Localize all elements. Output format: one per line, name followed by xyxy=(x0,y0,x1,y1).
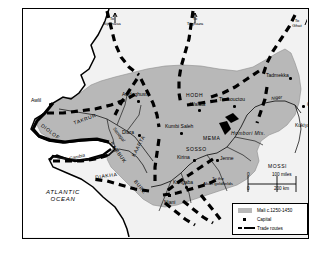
town-label-kangaba: Kangaba xyxy=(173,180,193,185)
town-marker-awlil xyxy=(49,103,52,106)
town-label-awlil: Awlil xyxy=(31,98,41,103)
town-label-kukiya: Kukiya xyxy=(295,123,309,128)
legend-label-mali-territory: Mali c.1250-1450 xyxy=(257,208,292,213)
map-figure: Awlil Awdaghust Diara Kumbi Saleh Walata… xyxy=(0,0,331,253)
region-label-mossi: MOSSI xyxy=(268,164,287,169)
ocean-label-line2: OCEAN xyxy=(35,196,91,203)
legend-symbol-trade-routes-a xyxy=(238,227,242,229)
offmap-akan-line2: Akan goldfields xyxy=(201,182,235,187)
offmap-route-label-sijilmasa: To Sijilmasa xyxy=(99,17,125,26)
town-marker-timbouctou xyxy=(233,105,236,108)
scale-bar: 0 100 miles 0 200 km xyxy=(246,172,308,198)
town-marker-tadmekka xyxy=(289,77,292,80)
capital-marker-niani xyxy=(168,194,171,197)
scale-miles-value: 100 miles xyxy=(272,172,292,177)
legend: Mali c.1250-1450 Capital Trade routes xyxy=(232,203,308,235)
scale-miles-zero: 0 xyxy=(247,172,250,177)
offmap-route-label-ghat: To Ghat xyxy=(285,19,309,28)
town-label-kumbi-saleh: Kumbi Saleh xyxy=(165,124,193,129)
town-marker-awdaghust xyxy=(137,100,140,103)
town-label-timbouctou: Timbouctou xyxy=(219,97,245,102)
town-marker-kirina xyxy=(193,159,196,162)
town-label-tadmekka: Tadmekka xyxy=(266,73,289,78)
legend-symbol-capital xyxy=(243,218,246,221)
legend-label-trade-routes: Trade routes xyxy=(257,226,283,231)
ocean-label-line1: ATLANTIC xyxy=(35,189,91,196)
offmap-taghaza-line2: Taghaza xyxy=(181,22,209,27)
scale-km-value: 200 km xyxy=(274,186,289,191)
region-label-hodh: HODH xyxy=(186,93,203,98)
region-label-sosso: SOSSO xyxy=(186,147,207,152)
offmap-route-label-akan: To the Akan goldfields xyxy=(201,177,235,186)
town-label-gao: Gao xyxy=(307,102,309,107)
scale-km-zero: 0 xyxy=(247,186,250,191)
feature-label-hombori-mts: Hombori Mts. xyxy=(231,131,266,136)
region-label-mema: MEMA xyxy=(203,136,220,141)
town-label-awdaghust: Awdaghust xyxy=(122,92,147,97)
town-label-jenne: Jenne xyxy=(220,156,234,161)
offmap-ghat-line2: Ghat xyxy=(285,24,309,29)
town-marker-walata xyxy=(198,109,201,112)
town-marker-kumbi-saleh xyxy=(180,132,183,135)
offmap-sijilmasa-line2: Sijilmasa xyxy=(99,22,125,27)
offmap-route-label-taghaza: To Taghaza xyxy=(181,17,209,26)
town-label-diara: Diara xyxy=(122,130,134,135)
legend-symbol-mali-territory xyxy=(238,208,252,213)
legend-label-capital: Capital xyxy=(257,217,271,222)
town-label-niani: Niani xyxy=(164,200,175,205)
ocean-label: ATLANTIC OCEAN xyxy=(35,189,91,203)
legend-symbol-trade-routes-b xyxy=(244,227,255,229)
town-label-walata: Walata xyxy=(190,102,205,107)
town-marker-jenne xyxy=(216,159,219,162)
town-marker-kangaba xyxy=(185,186,188,189)
town-marker-gao xyxy=(302,105,305,108)
town-label-kirina: Kirina xyxy=(177,155,190,160)
